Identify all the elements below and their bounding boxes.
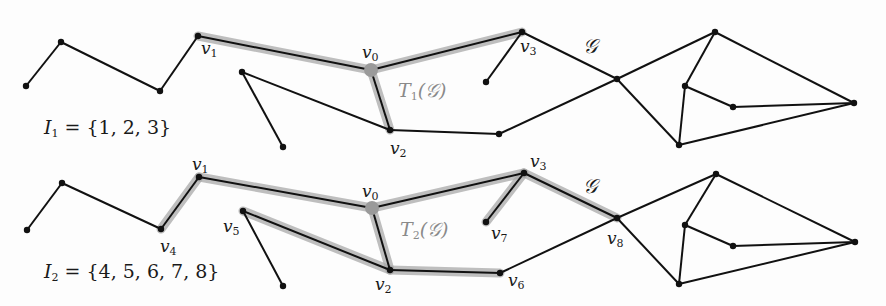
vertex-label-name: v (520, 36, 530, 56)
edge-v8-r1 (617, 32, 715, 79)
tree-label-bottom: T2(𝒢) (400, 220, 449, 241)
edge-v0-v2 (371, 70, 390, 130)
edge-c-v1 (161, 177, 199, 229)
vertex-label-v6: v6 (508, 272, 525, 291)
edge-r2-r3 (685, 86, 733, 107)
edge-v1-v0 (198, 36, 371, 70)
tree-label-sub: 2 (413, 229, 420, 242)
node-v8 (614, 76, 620, 82)
vertex-label-sub: 0 (372, 190, 379, 203)
tree-label-name: T (398, 79, 411, 101)
node-v7 (483, 219, 489, 225)
vertex-label-sub: 2 (385, 283, 392, 296)
graph-diagram: v1v0v3v2𝒢T1(𝒢)I1 = {1, 2, 3}v1v0v3v4v5v2… (0, 0, 886, 306)
edge-v2-v6 (390, 130, 499, 134)
edge-c-v1 (160, 36, 198, 91)
edge-v8-r5 (617, 79, 679, 145)
node-v5 (240, 208, 246, 214)
edge-r2-r5 (679, 225, 685, 284)
vertex-label-sub: 3 (540, 160, 547, 173)
edge-r2-r3 (685, 225, 733, 246)
edge-v8-r5 (617, 218, 679, 284)
tree-label-arg: (𝒢) (420, 218, 449, 240)
node-v8 (614, 215, 620, 221)
node-r3 (730, 104, 736, 110)
edge-v8-r1 (617, 174, 716, 218)
vertex-label-name: v (607, 228, 617, 248)
node-c (157, 88, 163, 94)
vertex-label-name: v (491, 223, 501, 243)
tree-label-name: T (400, 218, 413, 240)
edge-v6-v8 (499, 79, 617, 134)
edge-v6-v8 (500, 218, 617, 273)
edge-r2-r5 (679, 86, 685, 145)
vertex-label-name: v (530, 151, 540, 171)
vertex-label-v3: v3 (520, 38, 537, 57)
node-a (24, 227, 30, 233)
index-set-label-top: I1 = {1, 2, 3} (44, 118, 171, 139)
node-r4 (851, 100, 857, 106)
node-p (280, 144, 286, 150)
node-v2 (387, 127, 393, 133)
index-set-sub: 2 (52, 271, 59, 284)
vertex-label-sub: 8 (617, 237, 624, 250)
edge-b-c (61, 42, 160, 91)
edge-r1-r4 (716, 174, 855, 242)
edge-a-b (26, 42, 61, 86)
node-r3 (730, 243, 736, 249)
node-v6 (496, 131, 502, 137)
edge-v5-v2 (242, 72, 390, 130)
vertex-label-name: v (362, 42, 372, 62)
node-r2 (682, 222, 688, 228)
edge-r1-r4 (715, 32, 854, 103)
node-c (158, 226, 164, 232)
graph-label: 𝒢 (583, 176, 597, 196)
vertex-label-name: v (362, 181, 372, 201)
vertex-label-v7: v7 (491, 225, 508, 244)
graph-label: 𝒢 (583, 36, 597, 56)
node-r4 (852, 239, 858, 245)
vertex-label-sub: 6 (518, 279, 525, 292)
vertex-label-name: v (223, 216, 233, 236)
vertex-label-name: v (508, 270, 518, 290)
vertex-label-v1: v1 (192, 156, 209, 175)
vertex-label-v2: v2 (375, 276, 392, 295)
vertex-label-sub: 1 (211, 47, 218, 60)
node-v7 (483, 79, 489, 85)
vertex-label-v0: v0 (362, 44, 379, 63)
index-set-value: = {1, 2, 3} (59, 116, 172, 138)
node-r1 (712, 29, 718, 35)
node-b (59, 180, 65, 186)
edge-a-b (27, 183, 62, 230)
index-set-value: = {4, 5, 6, 7, 8} (59, 260, 220, 282)
edge-v5-p (242, 72, 283, 147)
vertex-label-name: v (390, 138, 400, 158)
node-v3 (519, 29, 525, 35)
edge-r5-r4 (679, 103, 854, 145)
vertex-label-name: v (192, 154, 202, 174)
edge-v1-v0 (199, 177, 372, 208)
edge-b-c (62, 183, 161, 229)
vertex-label-v8: v8 (607, 230, 624, 249)
root-node-v0 (365, 201, 379, 215)
vertex-label-sub: 0 (372, 51, 379, 64)
vertex-label-v1: v1 (201, 40, 218, 59)
tree-label-arg: (𝒢) (418, 79, 447, 101)
vertex-label-name: v (201, 38, 211, 58)
node-r5 (676, 142, 682, 148)
vertex-label-v4: v4 (160, 238, 177, 257)
vertex-label-v3: v3 (530, 153, 547, 172)
edge-v3-v8 (524, 173, 617, 218)
edge-r5-r4 (679, 242, 855, 284)
index-set-name: I (44, 260, 52, 282)
edge-v5-v2 (243, 211, 390, 270)
node-v2 (387, 267, 393, 273)
vertex-label-sub: 3 (530, 45, 537, 58)
vertex-label-v2: v2 (390, 140, 407, 159)
vertex-label-sub: 7 (501, 232, 508, 245)
node-r5 (676, 281, 682, 287)
tree-label-sub: 1 (411, 90, 418, 103)
node-v6 (497, 270, 503, 276)
vertex-label-sub: 4 (170, 245, 177, 258)
vertex-label-name: v (160, 236, 170, 256)
